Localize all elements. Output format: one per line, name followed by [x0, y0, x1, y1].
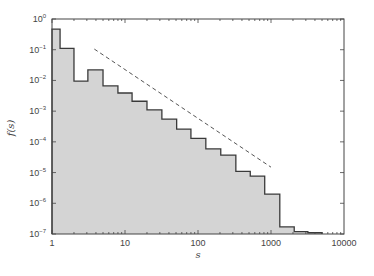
- y-tick-label: 10−2: [29, 74, 47, 85]
- x-axis-label: s: [195, 249, 200, 260]
- x-tick-label: 100: [190, 238, 205, 248]
- y-tick-label: 10−6: [29, 197, 47, 208]
- y-tick-label: 10−3: [29, 105, 47, 116]
- x-tick-label: 10: [120, 238, 130, 248]
- y-tick-label: 100: [33, 13, 47, 24]
- y-tick-label: 10−4: [29, 136, 47, 147]
- y-axis-tick-labels: 10010−110−210−310−410−510−610−7: [29, 13, 47, 239]
- x-tick-label: 1000: [261, 238, 281, 248]
- x-tick-label: 1: [49, 238, 54, 248]
- y-tick-label: 10−1: [29, 44, 47, 55]
- histogram-chart: 110100100010000 10010−110−210−310−410−51…: [0, 0, 374, 276]
- y-tick-label: 10−5: [29, 167, 47, 178]
- x-axis-tick-labels: 110100100010000: [49, 238, 356, 248]
- y-tick-label: 10−7: [29, 228, 47, 239]
- x-tick-label: 10000: [331, 238, 356, 248]
- y-axis-label: f(s): [5, 120, 16, 138]
- histogram-fill: [52, 29, 322, 234]
- histogram-area: [52, 29, 322, 234]
